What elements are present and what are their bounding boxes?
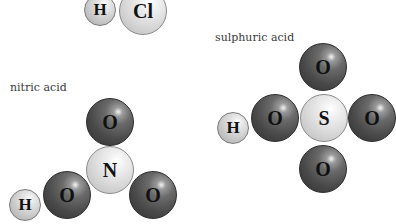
atom-symbol: N bbox=[103, 159, 117, 182]
nitric-oxygen-right-atom: O bbox=[129, 171, 177, 219]
atom-symbol: Cl bbox=[133, 0, 153, 23]
atom-symbol: O bbox=[267, 107, 283, 130]
nitric-oxygen-left-atom: O bbox=[43, 171, 91, 219]
atom-symbol: O bbox=[315, 158, 331, 181]
sulphuric-hydrogen-atom: H bbox=[217, 112, 249, 144]
atom-symbol: H bbox=[226, 118, 239, 138]
hcl-chlorine-atom: Cl bbox=[119, 0, 167, 35]
nitric-hydrogen-atom: H bbox=[9, 189, 41, 221]
atom-symbol: H bbox=[18, 195, 31, 215]
atom-symbol: O bbox=[145, 184, 161, 207]
atom-symbol: O bbox=[315, 56, 331, 79]
sulphuric-acid-label: sulphuric acid bbox=[215, 32, 294, 43]
atom-symbol: O bbox=[364, 107, 380, 130]
atom-symbol: S bbox=[318, 107, 329, 130]
sulphuric-oxygen-bottom-atom: O bbox=[299, 145, 347, 193]
atom-symbol: O bbox=[59, 184, 75, 207]
atom-symbol: H bbox=[93, 0, 106, 20]
nitric-acid-label: nitric acid bbox=[10, 82, 67, 93]
atom-symbol: O bbox=[102, 111, 118, 134]
sulphuric-oxygen-top-atom: O bbox=[299, 43, 347, 91]
nitric-oxygen-top-atom: O bbox=[86, 98, 134, 146]
sulphuric-sulphur-atom: S bbox=[300, 94, 348, 142]
sulphuric-oxygen-left-atom: O bbox=[251, 94, 299, 142]
hcl-hydrogen-atom: H bbox=[84, 0, 116, 26]
nitric-nitrogen-atom: N bbox=[86, 146, 134, 194]
sulphuric-oxygen-right-atom: O bbox=[348, 94, 396, 142]
